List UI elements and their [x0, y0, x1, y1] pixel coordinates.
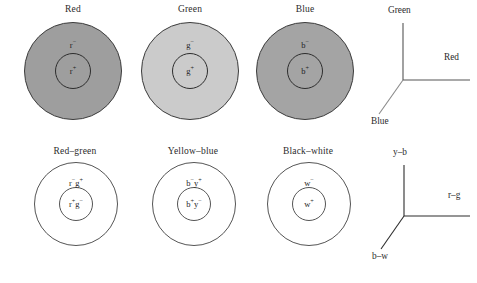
center-label-red: r+ — [70, 67, 76, 76]
surround-label-blue: b− — [301, 41, 309, 50]
surround-label-yellow-blue-second-sign: + — [198, 176, 202, 183]
surround-label-red-green: r−g+ — [69, 179, 83, 188]
surround-label-red: r− — [70, 41, 76, 50]
cone-axis-label-green: Green — [388, 6, 411, 15]
cone-axis-diagonal — [379, 80, 403, 114]
cone-panel-blue: Blue b− b+ — [232, 4, 378, 134]
center-label-black-white: w+ — [304, 200, 314, 209]
cone-axis-label-red: Red — [444, 53, 459, 62]
opponent-axis-label-b-w: b–w — [372, 252, 388, 261]
center-label-red-sign: + — [73, 64, 77, 71]
center-label-red-green: r+g− — [69, 200, 83, 209]
center-label-green: g+ — [186, 67, 194, 76]
receptive-field-disc-green: g− g+ — [141, 22, 239, 120]
receptive-field-disc-yellow-blue: b−y+ b+y− — [152, 162, 236, 246]
opponent-axes-diagram: y–b r–g b–w — [370, 146, 477, 271]
center-label-yellow-blue: b+y− — [186, 200, 202, 209]
center-label-yellow-blue-second-sign: − — [198, 197, 202, 204]
opponent-axis-diagonal — [381, 216, 404, 249]
surround-label-black-white-first-sign: − — [310, 176, 314, 183]
surround-label-yellow-blue: b−y+ — [186, 179, 202, 188]
receptive-field-disc-black-white: w− w+ — [267, 162, 351, 246]
surround-label-black-white: w− — [304, 179, 314, 188]
color-opponency-figure: Red r− r+ Green g− g+ Blue b− b+ — [0, 0, 477, 283]
center-label-red-green-second-sign: − — [80, 197, 84, 204]
opponent-panel-black-white: Black–white w− w+ — [235, 146, 381, 266]
center-label-blue: b+ — [301, 67, 309, 76]
center-label-blue-sign: + — [305, 64, 309, 71]
surround-label-blue-sign: − — [305, 38, 309, 45]
center-label-black-white-first-sign: + — [310, 197, 314, 204]
cone-axes-lines — [370, 4, 477, 134]
center-label-green-sign: + — [190, 64, 194, 71]
surround-label-green-sign: − — [190, 38, 194, 45]
receptive-field-disc-red: r− r+ — [24, 22, 122, 120]
opponent-axis-label-r-g: r–g — [448, 191, 460, 200]
cone-axes-diagram: Green Red Blue — [370, 4, 477, 134]
surround-label-green: g− — [186, 41, 194, 50]
surround-label-red-sign: − — [73, 38, 77, 45]
receptive-field-disc-blue: b− b+ — [256, 22, 354, 120]
receptive-field-disc-red-green: r−g+ r+g− — [34, 162, 118, 246]
cone-axis-label-blue: Blue — [371, 117, 389, 126]
opponent-axis-label-y-b: y–b — [393, 148, 407, 157]
panel-title-blue: Blue — [232, 4, 378, 14]
surround-label-red-green-second-sign: + — [80, 176, 84, 183]
panel-title-black-white: Black–white — [235, 146, 381, 156]
